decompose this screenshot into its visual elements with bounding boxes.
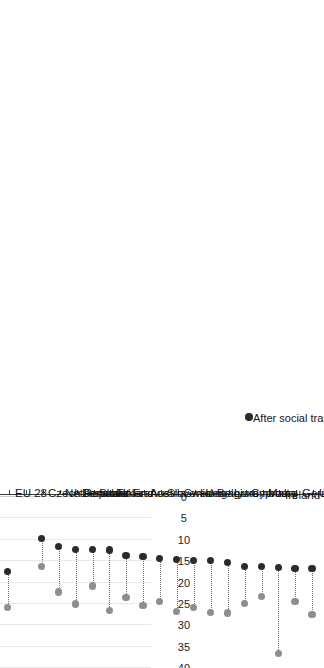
legend-after-swatch (245, 414, 253, 422)
category-label: EU 28 (15, 487, 47, 499)
category-label-text: United Kingdom (319, 487, 324, 499)
legend-after-label: After social transfers (253, 412, 324, 424)
category-tick (9, 490, 10, 494)
category-axis (0, 0, 324, 668)
category-label: United Kingdom (319, 487, 324, 499)
category-label-text: EU 28 (15, 487, 47, 499)
figure-container: 4035302520151050 EU 28Czech RepublicNeth… (0, 0, 324, 668)
